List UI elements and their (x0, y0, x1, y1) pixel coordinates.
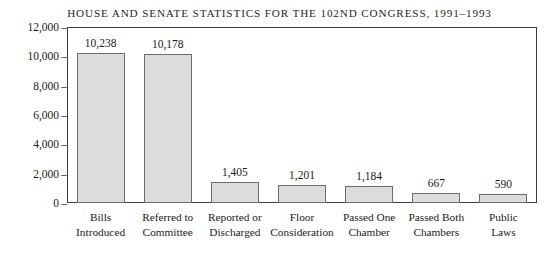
y-axis-tick-label: 10,000 (27, 49, 59, 63)
bar (345, 186, 393, 203)
bar (412, 193, 460, 203)
bar-group: 1,405 (211, 27, 259, 203)
y-axis-tick: 10,000– (27, 49, 67, 63)
bar-group: 1,201 (278, 27, 326, 203)
bar-group: 10,238 (77, 27, 125, 203)
y-axis-tick-label: 4,000 (33, 137, 59, 151)
y-axis-tick: 6,000– (33, 108, 67, 122)
bar (77, 53, 125, 203)
bar (144, 54, 192, 203)
y-axis-tick: 12,000– (27, 20, 67, 34)
y-axis-tick: 2,000– (33, 167, 67, 181)
y-axis-tick-mark: – (60, 137, 67, 151)
y-axis-tick-mark: – (60, 20, 67, 34)
chart-title: HOUSE AND SENATE STATISTICS FOR THE 102N… (0, 6, 559, 20)
y-axis-tick-label: 6,000 (33, 108, 59, 122)
x-axis-category-line: Laws (460, 225, 546, 240)
bars-layer: 10,23810,1781,4051,2011,184667590 (67, 27, 537, 203)
y-axis-tick: 8,000– (33, 79, 67, 93)
bar (278, 185, 326, 203)
y-axis-tick-label: 12,000 (27, 20, 59, 34)
bar (479, 194, 527, 203)
y-axis-tick-label: 8,000 (33, 79, 59, 93)
bar-value-label: 1,405 (200, 166, 270, 179)
bar-value-label: 1,201 (267, 169, 337, 182)
bar-group: 1,184 (345, 27, 393, 203)
y-axis-tick: 0– (53, 196, 67, 210)
bar-group: 667 (412, 27, 460, 203)
bar-value-label: 10,178 (133, 38, 203, 51)
y-axis-tick-label: 2,000 (33, 167, 59, 181)
bar-value-label: 10,238 (66, 37, 136, 50)
x-axis-category-line: Public (460, 210, 546, 225)
y-axis-tick: 4,000– (33, 137, 67, 151)
x-axis-labels: BillsIntroducedReferred toCommitteeRepor… (67, 210, 537, 250)
bar-group: 590 (479, 27, 527, 203)
bar-value-label: 590 (468, 178, 538, 191)
y-axis-tick-mark: – (60, 49, 67, 63)
y-axis-tick-mark: – (60, 108, 67, 122)
bar (211, 182, 259, 203)
bar-group: 10,178 (144, 27, 192, 203)
bar-value-label: 1,184 (334, 170, 404, 183)
y-axis-tick-mark: – (60, 79, 67, 93)
x-axis-category-label: PublicLaws (460, 210, 546, 239)
y-axis: 12,000–10,000–8,000–6,000–4,000–2,000–0– (0, 27, 67, 203)
bar-value-label: 667 (401, 177, 471, 190)
y-axis-tick-mark: – (60, 196, 67, 210)
y-axis-tick-label: 0 (53, 196, 59, 210)
bar-chart: HOUSE AND SENATE STATISTICS FOR THE 102N… (0, 0, 559, 254)
y-axis-tick-mark: – (60, 167, 67, 181)
